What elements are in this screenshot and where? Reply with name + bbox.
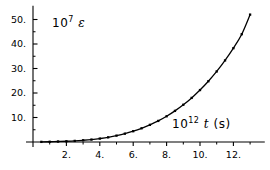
x-axis-label-unit: (s) bbox=[213, 117, 230, 131]
data-point-marker bbox=[232, 47, 234, 49]
data-point-marker bbox=[99, 137, 101, 139]
chart-background bbox=[0, 0, 270, 170]
x-axis-label: 1012 t (s) bbox=[172, 117, 231, 131]
data-point-marker bbox=[249, 13, 251, 15]
y-tick-label: 30. bbox=[11, 63, 26, 74]
y-tick-label: 40. bbox=[11, 38, 26, 49]
data-point-marker bbox=[90, 138, 92, 140]
y-axis-label-variable: ε bbox=[78, 16, 85, 30]
data-point-marker bbox=[49, 141, 51, 143]
data-point-marker bbox=[199, 89, 201, 91]
data-point-marker bbox=[74, 140, 76, 142]
data-point-marker bbox=[241, 33, 243, 35]
data-point-marker bbox=[115, 134, 117, 136]
x-axis-label-base: 10 bbox=[172, 117, 188, 131]
y-tick-label: 20. bbox=[11, 87, 26, 98]
data-point-marker bbox=[191, 97, 193, 99]
data-point-marker bbox=[132, 130, 134, 132]
data-point-marker bbox=[82, 139, 84, 141]
data-point-marker bbox=[124, 133, 126, 135]
data-point-marker bbox=[174, 110, 176, 112]
data-point-marker bbox=[165, 115, 167, 117]
data-point-marker bbox=[224, 59, 226, 61]
data-point-marker bbox=[149, 124, 151, 126]
x-tick-label: 8. bbox=[162, 149, 171, 160]
x-axis-label-exponent: 12 bbox=[188, 116, 199, 125]
data-point-marker bbox=[216, 70, 218, 72]
chart-plot-area: 2.4.6.8.10.12. 10.20.30.40.50. bbox=[0, 0, 270, 170]
data-point-marker bbox=[157, 120, 159, 122]
x-tick-label: 4. bbox=[95, 149, 104, 160]
data-point-marker bbox=[40, 141, 42, 143]
chart-container: 2.4.6.8.10.12. 10.20.30.40.50. 107 ε 101… bbox=[0, 0, 270, 170]
x-tick-label: 2. bbox=[62, 149, 71, 160]
x-tick-label: 10. bbox=[192, 149, 207, 160]
x-axis-label-variable: t bbox=[204, 117, 209, 131]
y-axis-label-exponent: 7 bbox=[68, 15, 74, 24]
data-point-marker bbox=[182, 104, 184, 106]
y-axis-label: 107 ε bbox=[52, 16, 85, 30]
x-tick-label: 12. bbox=[226, 149, 241, 160]
data-point-marker bbox=[140, 127, 142, 129]
data-point-marker bbox=[65, 140, 67, 142]
data-point-marker bbox=[57, 140, 59, 142]
y-tick-label: 10. bbox=[11, 112, 26, 123]
data-point-marker bbox=[207, 80, 209, 82]
data-point-marker bbox=[107, 136, 109, 138]
y-axis-label-base: 10 bbox=[52, 16, 68, 30]
y-tick-label: 50. bbox=[11, 14, 26, 25]
x-tick-label: 6. bbox=[129, 149, 138, 160]
